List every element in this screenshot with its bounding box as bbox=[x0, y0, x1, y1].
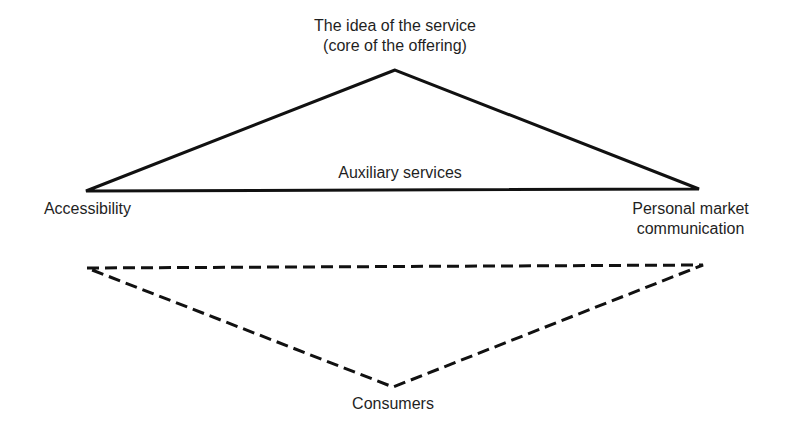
core-offering-label-line1: The idea of the service bbox=[295, 16, 495, 36]
accessibility-text: Accessibility bbox=[0, 199, 175, 219]
consumers-text: Consumers bbox=[318, 394, 468, 414]
accessibility-label: Accessibility bbox=[0, 199, 175, 219]
auxiliary-services-text: Auxiliary services bbox=[300, 163, 500, 183]
auxiliary-services-label: Auxiliary services bbox=[300, 163, 500, 183]
personal-market-communication-line1: Personal market bbox=[598, 199, 783, 219]
personal-market-communication-label: Personal market communication bbox=[598, 199, 783, 239]
core-offering-label: The idea of the service (core of the off… bbox=[295, 16, 495, 56]
consumers-label: Consumers bbox=[318, 394, 468, 414]
core-offering-label-line2: (core of the offering) bbox=[295, 36, 495, 56]
consumers-triangle bbox=[87, 265, 703, 387]
personal-market-communication-line2: communication bbox=[598, 219, 783, 239]
